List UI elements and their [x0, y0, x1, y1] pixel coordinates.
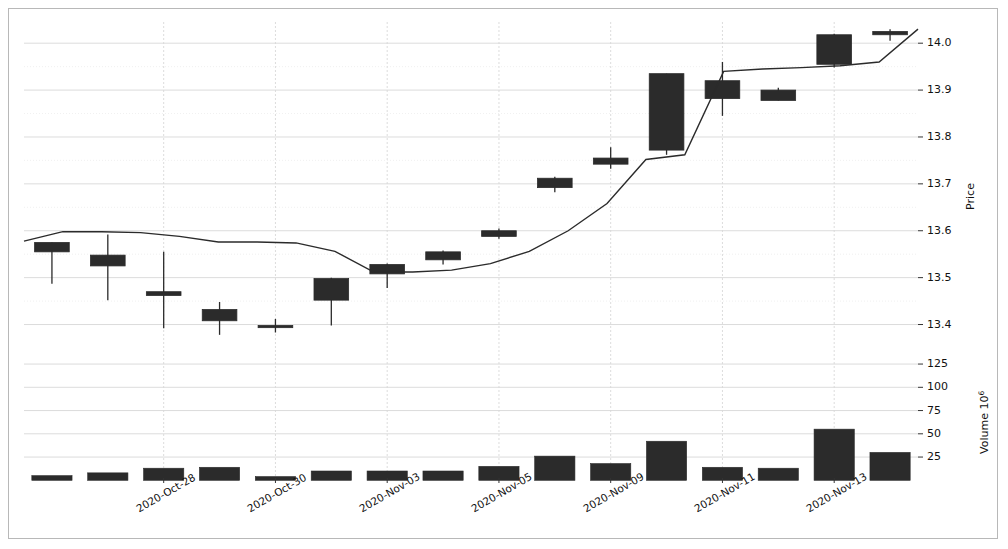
- volume-axis-title: Volume 106: [976, 391, 991, 454]
- moving-average-line: [24, 29, 918, 272]
- volume-tick-label: 50: [927, 428, 941, 439]
- candlestick-series: [35, 29, 908, 335]
- price-tick-label: 13.9: [927, 84, 952, 95]
- volume-bar: [870, 452, 910, 480]
- volume-axis-text: Volume: [978, 413, 991, 454]
- candle-body: [90, 255, 125, 266]
- volume-bar: [646, 441, 686, 480]
- price-tick-label: 14.0: [927, 37, 952, 48]
- volume-tick-label: 125: [927, 358, 948, 369]
- price-tick-label: 13.7: [927, 178, 952, 189]
- candle-body: [761, 90, 796, 100]
- candle-body: [537, 178, 572, 187]
- price-tick-label: 13.6: [927, 225, 952, 236]
- candle-body: [35, 242, 70, 251]
- candle-body: [426, 252, 461, 260]
- volume-tick-label: 100: [927, 381, 948, 392]
- candle-body: [146, 292, 181, 296]
- price-tick-label: 13.8: [927, 131, 952, 142]
- price-tick-label: 13.5: [927, 272, 952, 283]
- candle-body: [649, 74, 684, 150]
- candle-body: [593, 158, 628, 164]
- volume-bar: [535, 456, 575, 480]
- volume-bar: [199, 467, 239, 480]
- chart-screenshot: 14.013.913.813.713.613.513.4125100755025…: [0, 0, 1008, 549]
- volume-bar: [758, 468, 798, 480]
- candle-body: [482, 231, 517, 237]
- candlestick-chart: [0, 0, 1008, 549]
- volume-exponent: 106: [978, 391, 991, 410]
- volume-bar: [88, 473, 128, 480]
- volume-bar: [423, 471, 463, 480]
- price-axis-title: Price: [964, 183, 977, 210]
- price-tick-label: 13.4: [927, 319, 952, 330]
- candle-body: [258, 325, 293, 327]
- volume-bar: [311, 471, 351, 480]
- axis-ticks: [164, 43, 923, 483]
- volume-bar: [32, 476, 72, 481]
- volume-tick-label: 75: [927, 405, 941, 416]
- candle-body: [202, 310, 237, 321]
- candle-body: [314, 279, 349, 301]
- candle-body: [873, 31, 908, 34]
- candle-body: [705, 81, 740, 99]
- volume-bar: [814, 429, 854, 480]
- volume-tick-label: 25: [927, 451, 941, 462]
- candle-body: [817, 35, 852, 65]
